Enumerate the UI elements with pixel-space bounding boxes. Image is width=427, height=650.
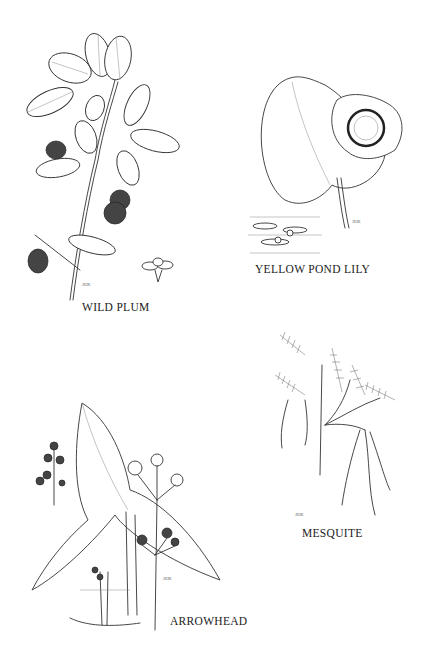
mesquite-illustration: JEK: [260, 320, 420, 520]
arrowhead-drawing: [20, 340, 280, 640]
mesquite-drawing: [260, 320, 420, 520]
yellow-pond-lily-illustration: JEK: [230, 60, 420, 260]
arrowhead-small-plant: [70, 567, 140, 625]
pond-scene-detail: [248, 217, 322, 253]
arrowhead-illustration: JEK: [20, 340, 280, 640]
wild-plum-label: WILD PLUM: [82, 301, 150, 313]
wild-plum-drawing: [0, 0, 220, 300]
arrowhead-signature: JEK: [163, 576, 172, 581]
wild-plum-illustration: JEK: [0, 0, 220, 300]
yellow-pond-lily-label: YELLOW POND LILY: [255, 263, 370, 275]
wild-plum-signature: JEK: [82, 282, 91, 287]
yellow-pond-lily-drawing: [230, 60, 420, 260]
plum-flower-detail: [142, 258, 173, 282]
pond-lily-signature: JEK: [352, 219, 361, 224]
arrowhead-fruit-sprig: [36, 442, 65, 505]
mesquite-signature: JEK: [295, 512, 304, 517]
mesquite-label: MESQUITE: [302, 527, 363, 539]
arrowhead-label: ARROWHEAD: [170, 615, 247, 627]
